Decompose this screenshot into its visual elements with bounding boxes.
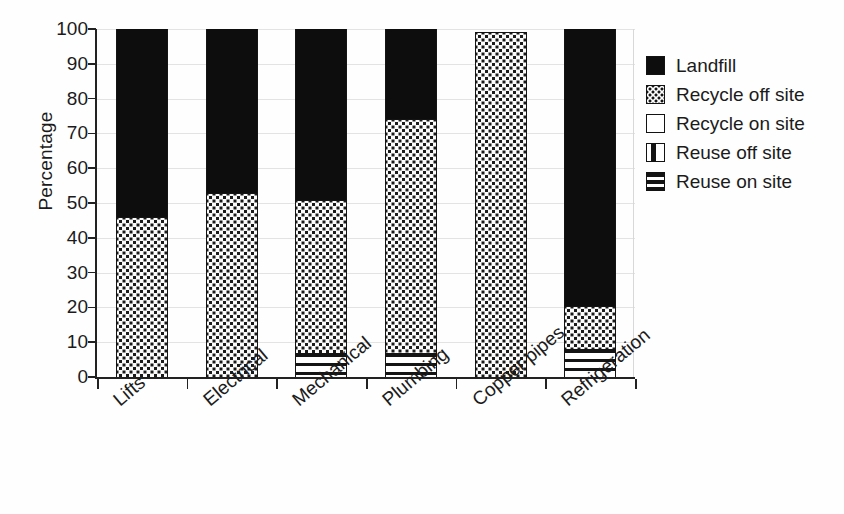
solid-black-swatch-icon xyxy=(646,56,665,75)
gridline xyxy=(97,29,635,30)
vertical-stripe-swatch-icon xyxy=(646,143,665,162)
dotted-swatch-icon xyxy=(646,85,665,104)
gridline xyxy=(97,307,635,308)
x-axis-tick-mark xyxy=(545,379,547,389)
stacked-bar[interactable] xyxy=(295,29,347,377)
y-axis-tick-label: 20 xyxy=(32,297,88,316)
bar-segment-recycle-off[interactable] xyxy=(296,200,346,353)
stacked-bar[interactable] xyxy=(475,32,527,377)
y-axis-tick-mark xyxy=(88,237,96,239)
y-axis-tick-label: 0 xyxy=(32,367,88,386)
plot-right-edge xyxy=(633,29,634,378)
y-axis-tick-label: 40 xyxy=(32,228,88,247)
legend-item-label: Reuse off site xyxy=(676,143,792,162)
stacked-bar[interactable] xyxy=(116,29,168,377)
stacked-bar[interactable] xyxy=(385,29,437,377)
gridline xyxy=(97,64,635,65)
y-axis-tick-label: 90 xyxy=(32,54,88,73)
y-axis-tick-mark xyxy=(88,133,96,135)
legend-item[interactable]: Recycle on site xyxy=(646,110,842,136)
gridline xyxy=(97,133,635,134)
x-axis-tick-mark xyxy=(635,379,637,389)
y-axis-tick-label: 60 xyxy=(32,158,88,177)
y-axis-tick-label: 80 xyxy=(32,89,88,108)
legend-item-label: Landfill xyxy=(676,56,736,75)
x-axis-tick-mark xyxy=(456,379,458,389)
gridline xyxy=(97,168,635,169)
bar-segment-landfill[interactable] xyxy=(565,29,615,306)
y-axis-tick-mark xyxy=(88,167,96,169)
legend-item-label: Recycle on site xyxy=(676,114,805,133)
bar-segment-recycle-off[interactable] xyxy=(207,193,257,377)
bar-segment-recycle-off[interactable] xyxy=(117,217,167,377)
stacked-bar[interactable] xyxy=(564,29,616,377)
horizontal-stripe-swatch-icon xyxy=(646,172,665,191)
gridline xyxy=(97,99,635,100)
y-axis-tick-mark xyxy=(88,28,96,30)
gridline xyxy=(97,203,635,204)
stacked-bar-chart-figure: Percentage 1009080706050403020100 LiftsE… xyxy=(0,0,844,514)
bar-segment-landfill[interactable] xyxy=(296,29,346,200)
x-axis-tick-mark xyxy=(187,379,189,389)
y-axis-tick-mark xyxy=(88,307,96,309)
x-axis-tick-mark xyxy=(97,379,99,389)
bar-segment-recycle-off[interactable] xyxy=(386,119,436,352)
legend-item[interactable]: Reuse off site xyxy=(646,139,842,165)
legend-item[interactable]: Landfill xyxy=(646,52,842,78)
y-axis-tick-mark xyxy=(88,341,96,343)
x-axis-line xyxy=(95,377,635,379)
gridline xyxy=(97,238,635,239)
legend-item[interactable]: Recycle off site xyxy=(646,81,842,107)
legend-item-label: Reuse on site xyxy=(676,172,792,191)
bar-segment-landfill[interactable] xyxy=(117,29,167,217)
legend-item[interactable]: Reuse on site xyxy=(646,168,842,194)
bar-segment-recycle-off[interactable] xyxy=(476,32,526,377)
bar-segment-landfill[interactable] xyxy=(207,29,257,193)
y-axis-tick-mark xyxy=(88,98,96,100)
white-swatch-icon xyxy=(646,114,665,133)
legend-item-label: Recycle off site xyxy=(676,85,804,104)
gridline xyxy=(97,273,635,274)
y-axis-tick-group: 1009080706050403020100 xyxy=(28,0,88,514)
bar-segment-landfill[interactable] xyxy=(386,29,436,119)
y-axis-tick-label: 10 xyxy=(32,332,88,351)
y-axis-tick-mark xyxy=(88,63,96,65)
chart-legend: LandfillRecycle off siteRecycle on siteR… xyxy=(646,52,842,197)
y-axis-tick-label: 70 xyxy=(32,123,88,142)
y-axis-tick-label: 30 xyxy=(32,263,88,282)
y-axis-tick-label: 100 xyxy=(32,19,88,38)
bar-segment-recycle-off[interactable] xyxy=(565,306,615,350)
x-axis-tick-mark xyxy=(276,379,278,389)
y-axis-tick-mark xyxy=(88,376,96,378)
x-axis-tick-mark xyxy=(366,379,368,389)
stacked-bar[interactable] xyxy=(206,29,258,377)
y-axis-tick-label: 50 xyxy=(32,193,88,212)
y-axis-tick-mark xyxy=(88,202,96,204)
y-axis-tick-mark xyxy=(88,272,96,274)
